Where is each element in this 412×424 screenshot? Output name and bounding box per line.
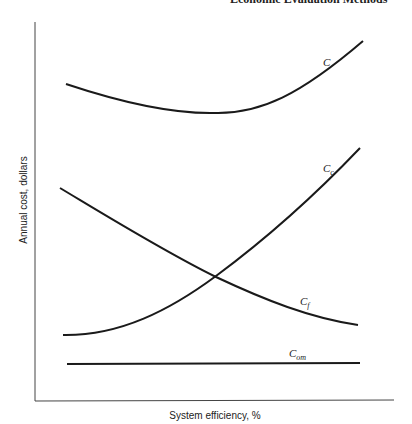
label-com: Com <box>289 347 306 362</box>
curve-com-om <box>67 363 360 364</box>
y-axis-label: Annual cost, dollars <box>18 156 29 243</box>
x-axis-label: System efficiency, % <box>0 410 412 421</box>
label-cf: Cf <box>300 295 311 310</box>
chart-plot-area: C Cc Cf Com <box>0 0 412 424</box>
curve-c-total <box>66 41 363 113</box>
curve-cc-capital <box>63 148 360 335</box>
label-c: C <box>323 56 331 68</box>
label-cc: Cc <box>323 162 334 177</box>
curve-cf-fuel <box>60 188 358 325</box>
x-axis <box>35 400 394 401</box>
